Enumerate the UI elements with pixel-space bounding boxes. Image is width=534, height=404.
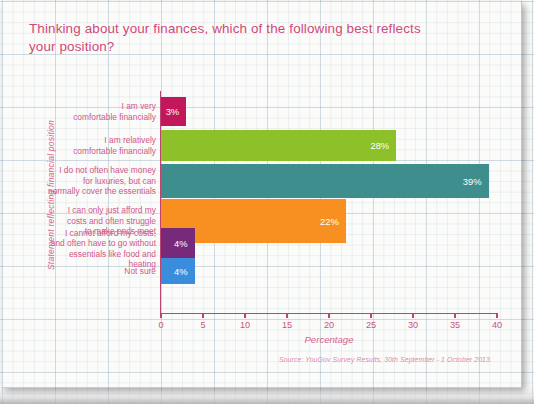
x-tick-label-30: 30 [398,320,428,330]
x-tick-5 [202,313,203,318]
category-label-2: I do not often have moneyfor luxuries, b… [42,165,156,196]
bar-value-label-0: 3% [166,106,187,117]
chart-page: Thinking about your finances, which of t… [0,0,534,404]
x-tick-label-35: 35 [440,320,470,330]
page-shadow [0,386,534,404]
category-label-5: Not sure [42,266,156,276]
x-tick-40 [496,313,497,318]
category-label-line: I can only just afford my [42,205,156,215]
category-label-line: for luxuries, but can [42,176,156,186]
bar-5: 4% [161,258,195,284]
bar-0: 3% [161,97,186,126]
category-label-line: I am relatively [42,135,156,145]
bar-1: 28% [161,130,396,161]
x-tick-10 [244,313,245,318]
category-label-0: I am verycomfortable financially [42,101,156,122]
x-tick-label-40: 40 [482,320,512,330]
x-tick-20 [328,313,329,318]
bar-value-label-2: 39% [463,176,489,187]
category-label-4: I cannot afford my costs,and often have … [42,228,156,270]
x-tick-label-20: 20 [314,320,344,330]
x-tick-35 [454,313,455,318]
x-tick-label-5: 5 [188,320,218,330]
bar-value-label-3: 22% [320,216,346,227]
source-note: Source: YouGov Survey Results, 30th Sept… [0,356,492,363]
x-axis-title: Percentage [161,334,497,345]
x-tick-label-25: 25 [356,320,386,330]
category-label-line: Not sure [42,266,156,276]
category-label-1: I am relativelycomfortable financially [42,135,156,156]
bar-value-label-1: 28% [370,140,396,151]
x-tick-label-15: 15 [272,320,302,330]
x-tick-25 [370,313,371,318]
bar-4: 4% [161,228,195,259]
x-tick-label-10: 10 [230,320,260,330]
x-tick-30 [412,313,413,318]
category-label-line: I do not often have money [42,165,156,175]
x-tick-label-0: 0 [146,320,176,330]
category-label-line: comfortable financially [42,146,156,156]
chart-title: Thinking about your finances, which of t… [29,20,449,55]
category-label-line: I cannot afford my costs, [42,228,156,238]
x-tick-15 [286,313,287,318]
bar-value-label-5: 4% [174,266,195,277]
bar-value-label-4: 4% [174,238,195,249]
category-label-line: costs and often struggle [42,216,156,226]
category-label-line: and often have to go without [42,238,156,248]
category-label-line: I am very [42,101,156,111]
category-label-line: normally cover the essentials [42,186,156,196]
bar-2: 39% [161,164,489,198]
x-tick-0 [160,313,161,318]
category-label-line: comfortable financially [42,112,156,122]
